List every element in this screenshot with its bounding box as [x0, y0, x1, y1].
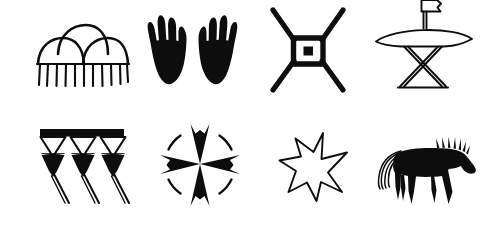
symbol-maltese-cross-in-broken-circle	[158, 122, 242, 208]
maltese-cross-icon	[158, 122, 242, 208]
pair-of-hands-icon	[152, 14, 232, 88]
horse-silhouette-icon	[374, 132, 480, 206]
three-hanging-pendants-icon	[34, 126, 138, 204]
symbol-altar-with-banner	[368, 0, 480, 102]
suspension-bar	[40, 129, 124, 137]
altar-with-banner-icon	[368, 0, 480, 102]
symbol-horse-silhouette	[374, 132, 480, 206]
symbol-plate	[0, 0, 483, 246]
symbol-pair-of-hands	[152, 14, 232, 88]
banner-icon	[422, 0, 442, 12]
center-dot-icon	[304, 47, 314, 56]
symbol-spool-with-dotted-square	[264, 4, 352, 96]
symbol-three-hanging-pendants	[34, 126, 138, 204]
symbol-six-pointed-star	[276, 130, 356, 204]
pendant	[101, 137, 130, 203]
three-arches-icon	[28, 6, 132, 92]
six-pointed-star-icon	[276, 130, 356, 204]
pendant	[71, 137, 100, 203]
pendant	[41, 137, 70, 203]
symbol-three-arches-with-tick-fringe	[28, 6, 132, 92]
spool-with-dotted-square-icon	[264, 4, 352, 96]
